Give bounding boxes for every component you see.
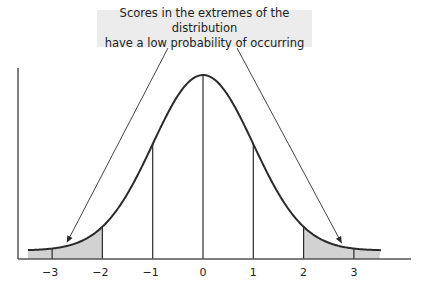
normal-curve <box>28 75 381 250</box>
normal-distribution-figure: −3−2−10123 <box>0 0 427 288</box>
tick-label: −1 <box>143 266 159 279</box>
tick-label: 2 <box>300 266 307 279</box>
shaded-upper-tail <box>304 227 379 259</box>
tick-label: 0 <box>200 266 207 279</box>
tick-label: −3 <box>42 266 58 279</box>
shaded-lower-tail <box>28 227 102 259</box>
arrow-to-upper-tail <box>237 48 341 242</box>
tick-label: 3 <box>350 266 357 279</box>
tick-label: −2 <box>92 266 108 279</box>
tick-label: 1 <box>250 266 257 279</box>
